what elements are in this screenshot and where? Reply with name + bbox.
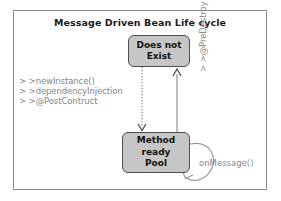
mdb-lifecycle-diagram: Message Driven Bean Life cycle Does not … [0, 0, 281, 201]
creation-step-post-construct: > >@PostContruct [19, 96, 144, 106]
state-method-ready-pool: Method ready Pool [122, 132, 190, 173]
state-label-line-1: Does not [136, 40, 181, 52]
page-title: Message Driven Bean Life cycle [13, 17, 267, 28]
creation-steps-list: > >newInstance() > >dependencyInjection … [19, 76, 144, 107]
state-does-not-exist: Does not Exist [128, 35, 190, 67]
creation-step-dependency-injection: > >dependencyInjection [19, 86, 144, 96]
edge-label-onmessage: onMessage() [199, 158, 253, 169]
edge-label-predestroy: > >@PreDestroy [196, 0, 210, 72]
state-label-line-3: Pool [145, 158, 167, 170]
state-label-line-2: ready [142, 147, 171, 159]
creation-step-new-instance: > >newInstance() [19, 76, 144, 86]
state-label-line-2: Exist [147, 51, 172, 63]
state-label-line-1: Method [137, 135, 175, 147]
